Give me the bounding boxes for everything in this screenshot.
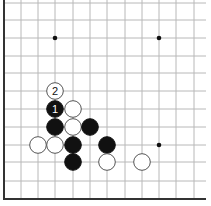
star-point	[157, 36, 162, 41]
white-stone	[47, 137, 64, 154]
stone-disc	[99, 137, 116, 154]
black-stone	[65, 137, 82, 154]
move-number-label: 2	[52, 85, 58, 97]
stone-disc	[65, 137, 82, 154]
stone-disc	[47, 119, 64, 136]
white-stone	[99, 154, 116, 171]
black-stone	[99, 137, 116, 154]
move-number-label: 1	[52, 103, 58, 115]
stone-disc	[65, 101, 82, 118]
black-stone	[47, 119, 64, 136]
stone-disc	[134, 154, 151, 171]
stone-disc	[99, 154, 116, 171]
white-stone: 2	[47, 83, 64, 100]
stone-disc	[47, 137, 64, 154]
star-point	[157, 143, 162, 148]
white-stone	[65, 119, 82, 136]
stone-disc	[30, 137, 47, 154]
white-stone	[30, 137, 47, 154]
go-board: 21	[0, 0, 211, 206]
stone-disc	[65, 119, 82, 136]
star-point	[53, 36, 58, 41]
white-stone	[65, 101, 82, 118]
stone-disc	[82, 119, 99, 136]
black-stone	[65, 154, 82, 171]
white-stone	[134, 154, 151, 171]
black-stone: 1	[47, 101, 64, 118]
black-stone	[82, 119, 99, 136]
stone-disc	[65, 154, 82, 171]
